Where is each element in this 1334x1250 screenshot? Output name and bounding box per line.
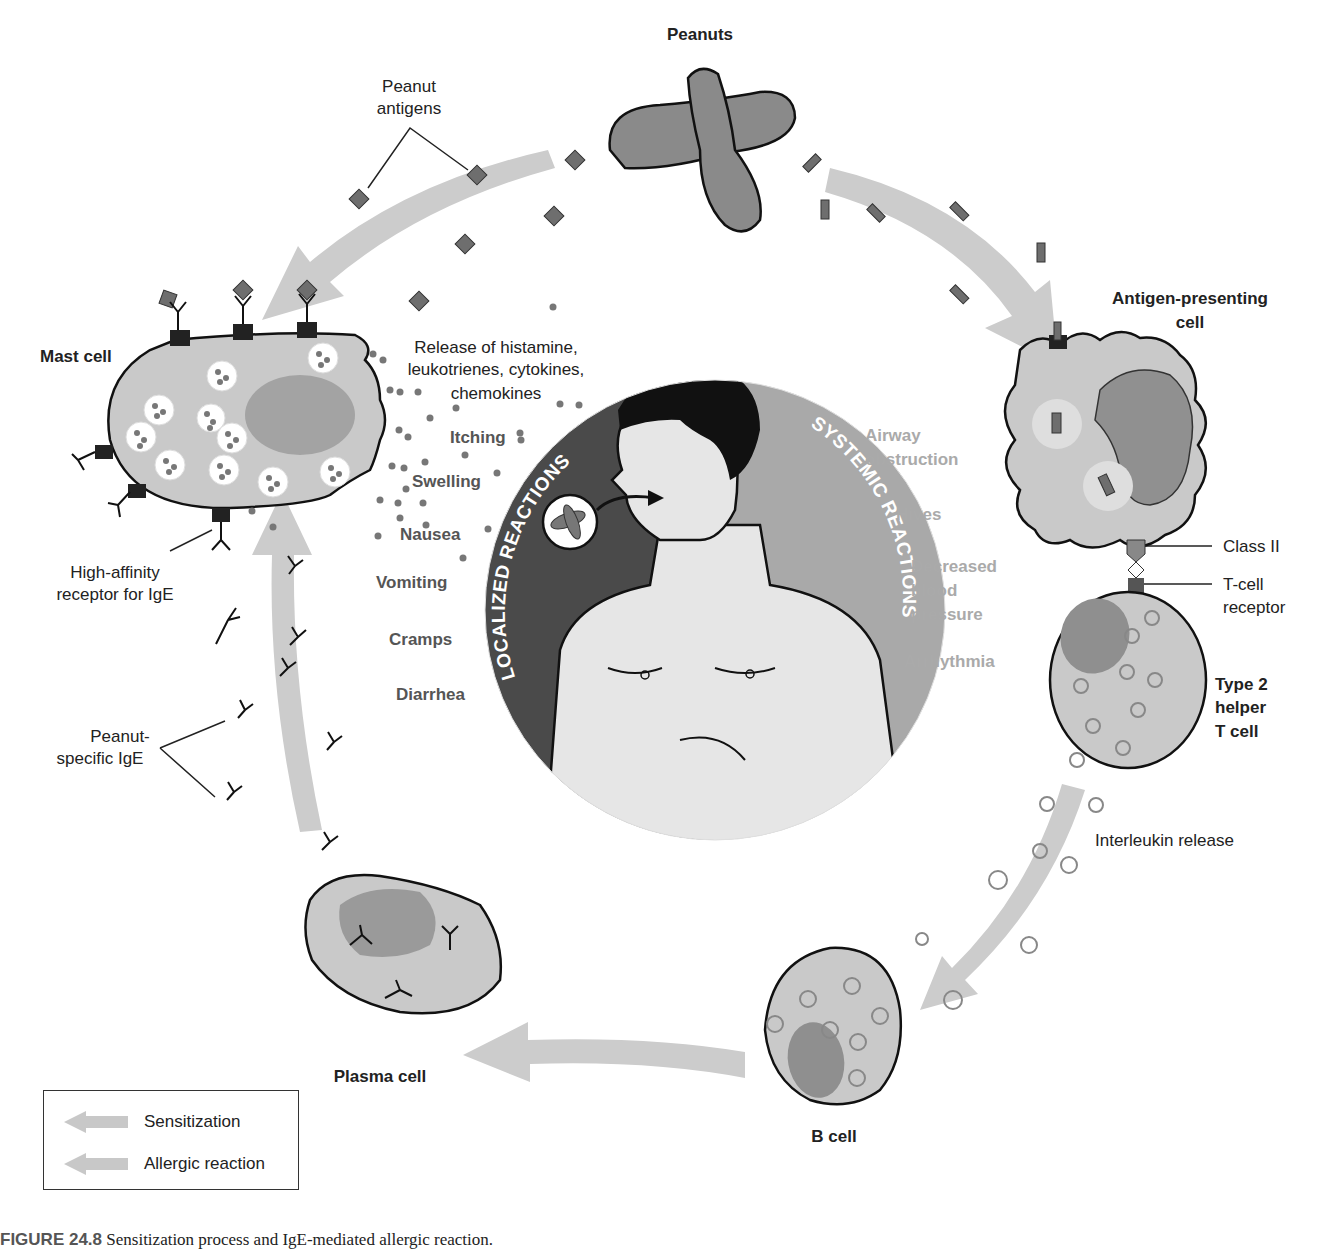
localized-item-diarrhea: Diarrhea [396,685,466,704]
systemic-item-bp-3: pressure [911,605,983,624]
systemic-item-arrhythmia: Arrhythmia [904,652,995,671]
allergic-reaction-arrow-icon [64,1153,128,1175]
antigen-presenting-cell [1005,322,1206,598]
type2-helper-t-cell [1050,589,1206,768]
label-release-1: Release of histamine, [414,338,577,357]
systemic-item-bp-1: Decreased [911,557,997,576]
localized-item-swelling: Swelling [412,472,481,491]
legend-item-allergic-reaction: Allergic reaction [64,1153,265,1175]
localized-item-nausea: Nausea [400,525,461,544]
label-th2-3: T cell [1215,722,1258,741]
label-high-affinity-1: High-affinity [70,563,160,582]
label-th2-2: helper [1215,698,1266,717]
label-th2-1: Type 2 [1215,675,1268,694]
caption-text: Sensitization process and IgE-mediated a… [106,1230,493,1249]
arrow-tcell-to-bcell [920,784,1085,1010]
label-tcr-2: receptor [1223,598,1286,617]
label-peanut-antigens-2: antigens [377,99,441,118]
arrow-peanuts-to-apc [825,168,1058,365]
b-cell [765,948,901,1104]
label-peanut-antigens-1: Peanut [382,77,436,96]
localized-item-cramps: Cramps [389,630,452,649]
localized-item-itching: Itching [450,428,506,447]
plasma-cell [305,875,500,1013]
label-interleukin-release: Interleukin release [1095,831,1234,850]
systemic-item-airway-2: obstruction [865,450,959,469]
label-tcr-1: T-cell [1223,575,1264,594]
legend-item-sensitization: Sensitization [64,1111,240,1133]
legend: Sensitization Allergic reaction [43,1090,299,1190]
systemic-item-hives: Hives [896,505,941,524]
label-high-affinity-2: receptor for IgE [56,585,173,604]
caption-label: FIGURE 24.8 [0,1230,102,1249]
label-release-2: leukotrienes, cytokines, [408,360,585,379]
label-peanut-specific-ige-2: specific IgE [57,749,144,768]
label-release-3: chemokines [451,384,542,403]
label-b-cell: B cell [811,1127,856,1146]
systemic-item-bp-2: blood [911,581,957,600]
label-plasma-cell: Plasma cell [334,1067,427,1086]
label-apc-2: cell [1176,313,1204,332]
label-peanut-specific-ige-1: Peanut- [90,727,150,746]
sensitization-arrow-icon [64,1111,128,1133]
peanuts-illustration [610,69,795,232]
figure-caption: FIGURE 24.8 Sensitization process and Ig… [0,1230,493,1250]
ige-leader [160,721,225,797]
legend-label: Allergic reaction [144,1154,265,1174]
label-mast-cell: Mast cell [40,347,112,366]
mast-cell [72,280,385,550]
arrow-plasma-to-mast-cell [252,492,322,832]
localized-item-vomiting: Vomiting [376,573,447,592]
receptor-leader [170,530,212,551]
label-class-ii: Class II [1223,537,1280,556]
label-peanuts: Peanuts [667,25,733,44]
systemic-item-airway-1: Airway [865,426,921,445]
label-apc-1: Antigen-presenting [1112,289,1268,308]
legend-label: Sensitization [144,1112,240,1132]
arrow-bcell-to-plasma [463,1022,745,1082]
